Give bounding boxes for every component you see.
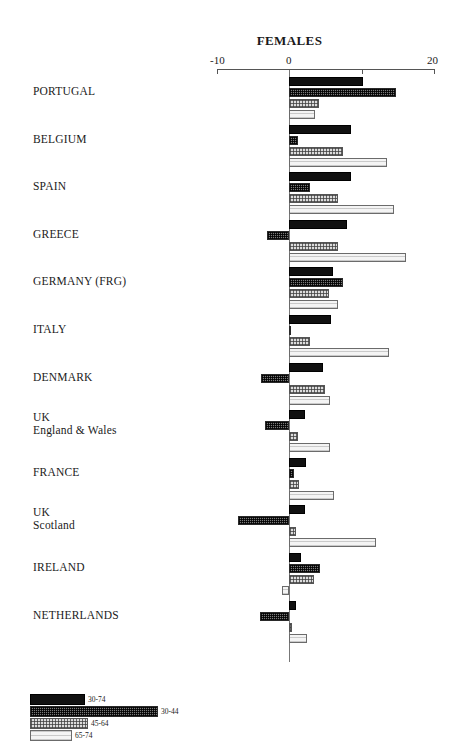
bar-45-64 (289, 623, 292, 632)
category-label: GREECE (33, 228, 79, 241)
category-label: DENMARK (33, 371, 93, 384)
x-axis-tick-minus10 (217, 69, 218, 74)
bar-65-74 (289, 634, 307, 643)
bar-65-74 (289, 396, 330, 405)
bar-65-74 (289, 538, 376, 547)
x-axis-tick-labels: -10 0 20 (0, 54, 461, 68)
bar-45-64 (289, 147, 343, 156)
bar-65-74 (289, 253, 406, 262)
x-tick-label-minus10: -10 (210, 54, 225, 66)
bar-45-64 (289, 99, 319, 108)
bar-30-74 (289, 77, 363, 86)
bar-30-44 (267, 231, 289, 240)
bar-30-74 (289, 220, 347, 229)
bar-30-44 (289, 183, 310, 192)
bar-65-74 (289, 205, 394, 214)
bar-30-74 (289, 505, 305, 514)
legend-swatch-45-64 (30, 718, 88, 729)
bar-65-74 (289, 348, 389, 357)
bar-30-44 (289, 136, 298, 145)
bar-30-74 (289, 172, 351, 181)
bar-30-44 (289, 278, 343, 287)
bar-45-64 (289, 242, 338, 251)
bar-30-74 (289, 601, 296, 610)
bar-65-74 (282, 586, 289, 595)
bar-45-64 (289, 337, 310, 346)
legend-label-45-64: 45-64 (91, 718, 109, 729)
bar-45-64 (289, 194, 338, 203)
bar-45-64 (289, 480, 299, 489)
bar-30-44 (289, 88, 396, 97)
category-label: UK Scotland (33, 506, 75, 532)
bar-30-74 (289, 267, 333, 276)
category-label: FRANCE (33, 466, 80, 479)
legend-swatch-30-74 (30, 694, 85, 705)
chart-legend: 30-74 30-44 45-64 65-74 (30, 694, 230, 735)
x-axis-line (217, 69, 435, 70)
bar-30-74 (289, 315, 331, 324)
legend-swatch-65-74 (30, 730, 72, 741)
x-axis-tick-twenty (434, 69, 435, 74)
x-tick-label-zero: 0 (286, 54, 292, 66)
category-label: PORTUGAL (33, 85, 95, 98)
category-label: SPAIN (33, 180, 66, 193)
legend-label-30-74: 30-74 (88, 694, 106, 705)
bar-30-44 (289, 469, 294, 478)
legend-label-65-74: 65-74 (75, 730, 93, 741)
bar-45-64 (289, 289, 329, 298)
bar-45-64 (289, 432, 298, 441)
bar-30-44 (260, 612, 289, 621)
category-label: IRELAND (33, 561, 85, 574)
bar-45-64 (289, 527, 296, 536)
chart-title-text: FEMALES (257, 33, 323, 49)
bar-30-44 (238, 516, 289, 525)
bar-30-74 (289, 125, 351, 134)
bar-30-74 (289, 553, 301, 562)
legend-swatch-30-44 (30, 706, 158, 717)
bar-65-74 (289, 491, 334, 500)
bar-65-74 (289, 158, 387, 167)
bar-65-74 (289, 443, 330, 452)
bar-65-74 (289, 110, 315, 119)
bar-45-64 (289, 575, 314, 584)
legend-label-30-44: 30-44 (161, 706, 179, 717)
bar-30-74 (289, 363, 323, 372)
bar-30-44 (265, 421, 289, 430)
category-label: GERMANY (FRG) (33, 275, 126, 288)
category-label: UK England & Wales (33, 411, 117, 437)
bar-30-74 (289, 458, 306, 467)
bar-30-44 (289, 564, 320, 573)
category-label: BELGIUM (33, 133, 87, 146)
x-axis-tick-ten (362, 69, 363, 74)
bar-30-44 (261, 374, 289, 383)
category-label: ITALY (33, 323, 66, 336)
bar-30-74 (289, 410, 305, 419)
bar-65-74 (289, 300, 338, 309)
category-label: NETHERLANDS (33, 609, 119, 622)
chart-title: FEMALES (0, 33, 461, 49)
x-tick-label-twenty: 20 (427, 54, 438, 66)
bar-30-44 (289, 326, 291, 335)
bar-45-64 (289, 385, 325, 394)
